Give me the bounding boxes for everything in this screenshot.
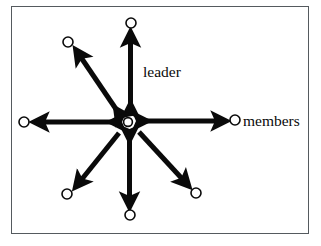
node-member-bottom xyxy=(125,210,135,220)
diagram-figure: leader members xyxy=(0,0,321,246)
node-member-left xyxy=(19,117,29,127)
edge-center-lower-right xyxy=(139,132,186,183)
node-center-leader xyxy=(124,118,133,127)
edge-center-upper-left xyxy=(78,53,118,112)
node-member-upper-left xyxy=(63,37,73,47)
node-member-lower-right xyxy=(191,188,201,198)
node-member-right xyxy=(230,115,240,125)
node-member-lower-left xyxy=(62,189,72,199)
leader-label: leader xyxy=(143,64,181,80)
edge-center-lower-left xyxy=(78,133,119,184)
node-member-top xyxy=(126,18,136,28)
members-label: members xyxy=(243,113,300,129)
